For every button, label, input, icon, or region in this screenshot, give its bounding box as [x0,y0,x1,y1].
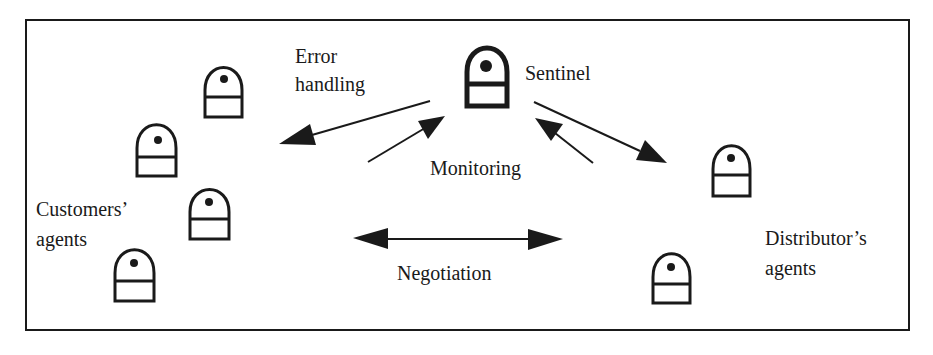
distributors-agents-label-line1: Distributor’s [765,227,867,249]
distributor-agent-icon [713,146,750,196]
customers-agents-label-line2: agents [36,228,87,251]
customer-agent-icon [190,190,229,240]
agent-architecture-diagram: Error handling Sentinel Monitoring Custo… [0,0,933,355]
sentinel-agent-icon [467,48,507,106]
sentinel-label: Sentinel [525,62,591,84]
customers-agents-label-line1: Customers’ [36,198,128,220]
error-handling-label-line2: handling [295,73,365,96]
error-handling-label-line1: Error [295,45,338,67]
customer-agent-icon [137,125,176,176]
monitoring-left-arrow [368,116,445,162]
customer-agent-icon [115,250,154,301]
negotiation-arrow [353,228,563,250]
negotiation-label: Negotiation [397,262,491,285]
distributor-agent-icon [653,254,690,303]
customer-agent-icon [205,68,242,118]
distributors-agents-label-line2: agents [765,257,816,280]
monitoring-label: Monitoring [430,157,521,180]
